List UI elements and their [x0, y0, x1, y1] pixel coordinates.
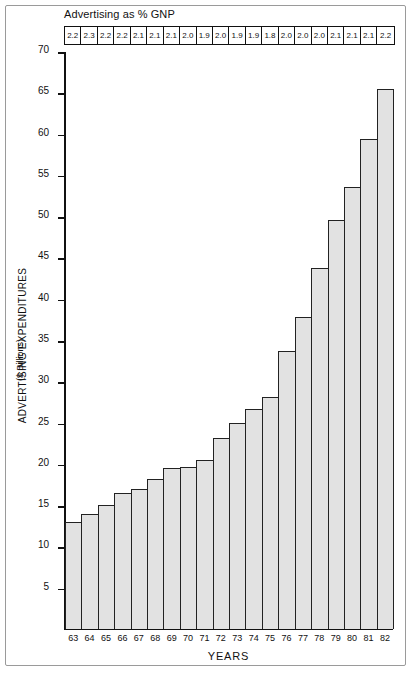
y-axis-tick: 40 [58, 300, 64, 302]
y-axis-tick: 30 [58, 382, 64, 384]
gnp-cell: 2.3 [81, 27, 97, 44]
gnp-cell: 2.1 [147, 27, 163, 44]
y-axis-tick-label: 25 [38, 417, 49, 427]
bar [344, 187, 361, 629]
x-axis-tick-label: 82 [377, 634, 393, 643]
y-axis-tick-label: 10 [38, 540, 49, 550]
gnp-cell: 2.0 [180, 27, 196, 44]
y-axis-tick: 60 [58, 135, 64, 137]
y-axis-title-group: ADVERTISING EXPENDITURES ($ Billions) [0, 250, 36, 450]
x-axis-tick-label: 66 [114, 634, 130, 643]
gnp-cell: 2.1 [164, 27, 180, 44]
x-axis-tick-label: 67 [131, 634, 147, 643]
gnp-cell: 2.2 [65, 27, 81, 44]
y-axis-tick-label: 60 [38, 128, 49, 138]
bar [360, 139, 377, 629]
y-axis-tick-label: 35 [38, 334, 49, 344]
x-axis-tick-label: 73 [229, 634, 245, 643]
bar [328, 220, 345, 629]
y-axis-tick: 20 [58, 465, 64, 467]
y-axis-tick: 15 [58, 506, 64, 508]
y-axis-units: ($ Billions) [15, 280, 25, 440]
bar [163, 468, 180, 629]
bar [131, 489, 148, 629]
y-axis-tick-label: 20 [38, 458, 49, 468]
y-axis-tick: 5 [58, 589, 64, 591]
bar [98, 505, 115, 629]
gnp-cell: 2.2 [377, 27, 393, 44]
y-axis-tick: 50 [58, 217, 64, 219]
x-axis-tick-label: 65 [98, 634, 114, 643]
bar [147, 479, 164, 629]
gnp-cell: 2.0 [295, 27, 311, 44]
y-axis-tick-label: 45 [38, 251, 49, 261]
x-axis-tick-label: 71 [196, 634, 212, 643]
bar [213, 438, 230, 629]
gnp-annotation-title: Advertising as % GNP [64, 8, 175, 20]
bar [229, 423, 246, 629]
x-axis-tick-label: 81 [360, 634, 376, 643]
y-axis-tick-label: 30 [38, 375, 49, 385]
x-axis-tick-label: 63 [65, 634, 81, 643]
bar [81, 514, 98, 629]
gnp-cell: 2.0 [312, 27, 328, 44]
bar [65, 522, 82, 629]
x-axis-tick-label: 78 [311, 634, 327, 643]
gnp-cell: 2.2 [114, 27, 130, 44]
gnp-annotation-row: 2.22.32.22.22.12.12.12.01.92.01.91.91.82… [64, 26, 395, 45]
x-axis-tick-label: 64 [81, 634, 97, 643]
y-axis-tick-label: 40 [38, 293, 49, 303]
gnp-cell: 2.1 [344, 27, 360, 44]
y-axis-tick-label: 70 [38, 45, 49, 55]
y-axis-tick-label: 5 [43, 582, 49, 592]
x-axis-tick-label: 80 [344, 634, 360, 643]
bar-series [65, 52, 393, 629]
x-axis-tick-label: 77 [295, 634, 311, 643]
bar [311, 268, 328, 629]
x-axis-tick-label: 76 [278, 634, 294, 643]
gnp-cell: 1.8 [262, 27, 278, 44]
x-axis-tick-label: 72 [213, 634, 229, 643]
gnp-cell: 2.1 [131, 27, 147, 44]
y-axis-tick: 55 [58, 176, 64, 178]
y-axis-tick-label: 15 [38, 499, 49, 509]
gnp-cell: 1.9 [197, 27, 213, 44]
bar [377, 89, 394, 629]
gnp-cell: 1.9 [246, 27, 262, 44]
gnp-cell: 2.1 [361, 27, 377, 44]
bar [262, 397, 279, 629]
x-axis-tick-label: 79 [328, 634, 344, 643]
y-axis-tick: 25 [58, 424, 64, 426]
x-axis-tick-label: 68 [147, 634, 163, 643]
y-axis-tick-label: 65 [38, 86, 49, 96]
y-axis-tick-label: 55 [38, 169, 49, 179]
x-axis-tick-label: 74 [245, 634, 261, 643]
bar [278, 351, 295, 629]
y-axis-tick: 65 [58, 93, 64, 95]
advertising-expenditures-chart: Advertising as % GNP 2.22.32.22.22.12.12… [0, 0, 413, 673]
gnp-cell: 1.9 [229, 27, 245, 44]
bar [245, 409, 262, 629]
gnp-cell: 2.1 [328, 27, 344, 44]
bar [196, 460, 213, 629]
bar [180, 467, 197, 629]
x-axis-tick-label: 69 [163, 634, 179, 643]
x-axis-tick-label: 75 [262, 634, 278, 643]
bar [114, 493, 131, 629]
y-axis-tick: 70 [58, 52, 64, 54]
gnp-cell: 2.0 [213, 27, 229, 44]
y-axis-tick-label: 50 [38, 210, 49, 220]
y-axis-tick: 10 [58, 547, 64, 549]
x-axis-tick-labels: 6364656667686970717273747576777879808182 [65, 634, 393, 643]
gnp-cell: 2.2 [98, 27, 114, 44]
plot-area: 706560555045403530252015105 636465666768… [64, 52, 393, 630]
x-axis-title: YEARS [64, 650, 393, 662]
y-axis-tick: 45 [58, 258, 64, 260]
gnp-cell: 2.0 [279, 27, 295, 44]
y-axis-tick: 35 [58, 341, 64, 343]
x-axis-tick-label: 70 [180, 634, 196, 643]
bar [295, 317, 312, 629]
